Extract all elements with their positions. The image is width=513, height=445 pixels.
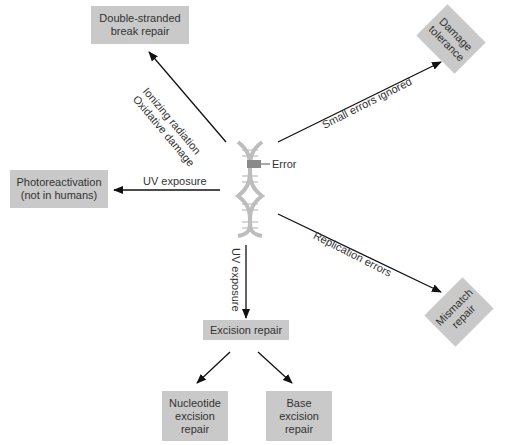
double-stranded-break-repair-box: Double-stranded break repair	[91, 6, 189, 44]
uv-exposure-left-label: UV exposure	[143, 175, 207, 187]
uv-exposure-down-label: UV exposure	[230, 248, 242, 312]
dna-helix-icon	[238, 142, 262, 236]
photoreactivation-box: Photoreactivation (not in humans)	[10, 170, 108, 208]
base-excision-repair-box: Base excision repair	[266, 391, 332, 441]
error-mark	[247, 160, 261, 168]
arrows-layer	[0, 0, 513, 445]
excision-repair-box: Excision repair	[203, 320, 289, 340]
nucleotide-excision-repair-box: Nucleotide excision repair	[162, 391, 228, 441]
error-label: Error	[272, 158, 296, 170]
